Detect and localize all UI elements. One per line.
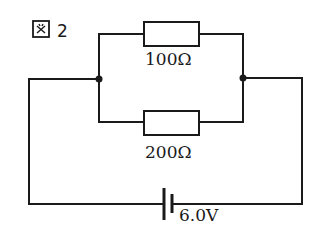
circuit-diagram: 2 100Ω 200Ω 6.0V — [0, 0, 321, 237]
junction-right-dot — [240, 75, 247, 82]
wire-outer-left — [29, 79, 164, 204]
wire-upper-left — [99, 34, 144, 79]
wire-outer-right — [172, 78, 302, 204]
wire-lower-left — [99, 79, 144, 122]
resistor-200-label: 200Ω — [145, 142, 192, 162]
battery-voltage-label: 6.0V — [179, 205, 219, 225]
wire-lower-right — [199, 78, 243, 122]
resistor-200-ohm — [144, 111, 199, 135]
junction-left-dot — [96, 76, 103, 83]
battery-icon — [164, 188, 172, 220]
figure-number: 2 — [57, 21, 68, 41]
wire-upper-right — [199, 34, 243, 78]
resistor-100-ohm — [144, 22, 199, 46]
resistor-100-label: 100Ω — [145, 49, 192, 69]
figure-label: 2 — [33, 21, 68, 41]
